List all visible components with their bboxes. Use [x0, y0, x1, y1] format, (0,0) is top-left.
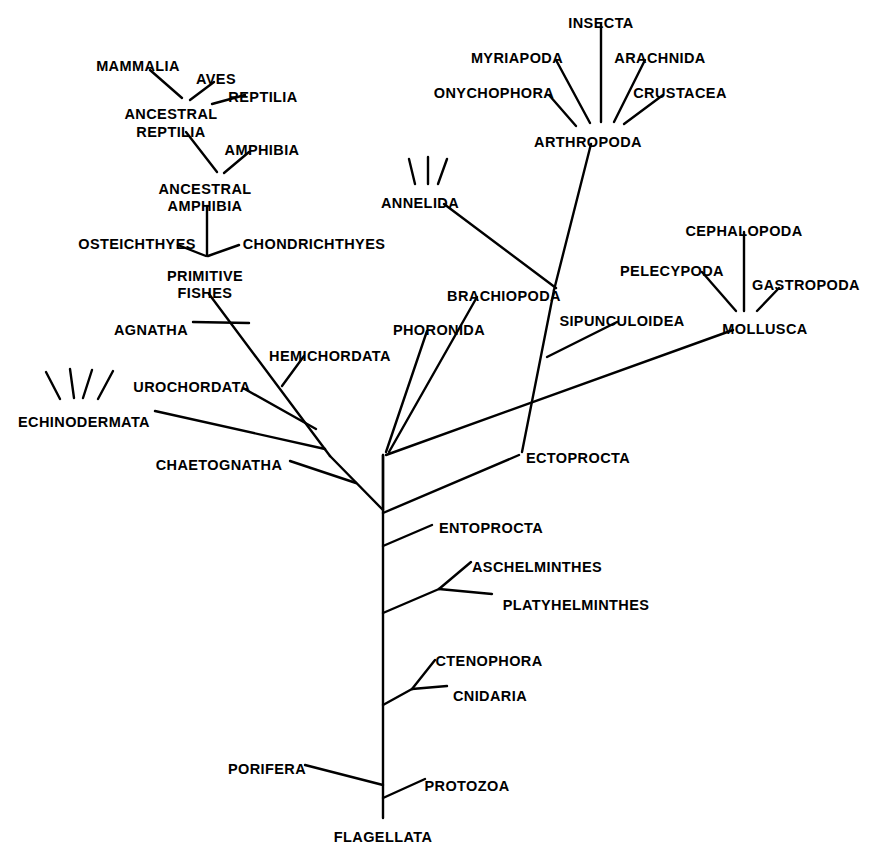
echinodermata-ticks-4 — [98, 371, 113, 399]
taxon-label-ancestral-reptilia-1: ANCESTRAL — [124, 106, 217, 122]
taxon-label-crustacea: CRUSTACEA — [633, 85, 727, 101]
branch-ectoprocta-branch — [383, 455, 519, 513]
branch-primitive-fishes-stem — [209, 294, 330, 456]
branch-agnatha-branch — [193, 322, 249, 323]
taxon-label-osteichthyes: OSTEICHTHYES — [78, 236, 196, 252]
taxon-label-aves: AVES — [196, 71, 236, 87]
branch-aschelminthes-branch — [439, 562, 471, 589]
branch-brachiopoda-branch — [389, 297, 477, 452]
taxon-label-platyhelminthes: PLATYHELMINTHES — [503, 597, 650, 613]
taxon-label-echinodermata: ECHINODERMATA — [18, 414, 150, 430]
taxon-label-mollusca: MOLLUSCA — [722, 321, 807, 337]
phylogenetic-tree-diagram: MAMMALIAAVESREPTILIAANCESTRALREPTILIAAMP… — [0, 0, 877, 847]
taxon-label-chaetognatha: CHAETOGNATHA — [156, 457, 283, 473]
branch-myriapoda-branch — [556, 60, 590, 123]
taxon-label-agnatha: AGNATHA — [114, 322, 188, 338]
echinodermata-ticks-2 — [70, 369, 74, 398]
branch-mollusca-stem — [386, 330, 733, 455]
branch-chondrichthyes-branch — [208, 245, 239, 256]
taxon-label-chondrichthyes: CHONDRICHTHYES — [243, 236, 386, 252]
echinodermata-ticks-3 — [83, 370, 92, 398]
branch-helminth-stem — [383, 589, 439, 613]
branch-phoronida-branch — [386, 331, 427, 452]
taxon-label-reptilia: REPTILIA — [228, 89, 297, 105]
taxon-label-annelida: ANNELIDA — [381, 195, 459, 211]
taxon-label-amphibia: AMPHIBIA — [225, 142, 300, 158]
branch-arthropoda-stem — [554, 144, 591, 290]
taxon-label-brachiopoda: BRACHIOPODA — [447, 288, 561, 304]
taxon-label-phoronida: PHORONIDA — [393, 322, 485, 338]
taxon-label-cephalopoda: CEPHALOPODA — [685, 223, 802, 239]
branch-cnidaria-branch — [412, 686, 447, 689]
taxon-label-ancestral-amphibia-2: AMPHIBIA — [168, 198, 243, 214]
taxon-label-arthropoda: ARTHROPODA — [534, 134, 642, 150]
taxon-label-pelecypoda: PELECYPODA — [620, 263, 724, 279]
taxon-label-gastropoda: GASTROPODA — [752, 277, 860, 293]
taxon-label-arachnida: ARACHNIDA — [614, 50, 705, 66]
taxon-label-urochordata: UROCHORDATA — [133, 379, 250, 395]
branch-ctenophora-branch — [412, 660, 435, 689]
taxon-label-insecta: INSECTA — [568, 15, 633, 31]
branch-arthropoda-lower — [522, 290, 554, 452]
branch-chordate-stem — [330, 456, 383, 510]
taxon-label-ectoprocta: ECTOPROCTA — [526, 450, 630, 466]
taxon-label-ctenophora: CTENOPHORA — [435, 653, 542, 669]
branch-cnidaria-stem — [383, 689, 412, 705]
annelida-ticks-3 — [438, 159, 447, 184]
taxon-label-primitive-fishes-2: FISHES — [178, 285, 233, 301]
taxon-label-aschelminthes: ASCHELMINTHES — [472, 559, 602, 575]
taxon-label-flagellata: FLAGELLATA — [334, 829, 433, 845]
taxon-label-mammalia: MAMMALIA — [96, 58, 180, 74]
taxon-label-primitive-fishes-1: PRIMITIVE — [167, 268, 243, 284]
branch-annelida-branch — [444, 204, 556, 288]
taxon-label-hemichordata: HEMICHORDATA — [269, 348, 391, 364]
branch-porifera-branch — [305, 765, 383, 785]
taxon-label-entoprocta: ENTOPROCTA — [439, 520, 543, 536]
taxon-label-cnidaria: CNIDARIA — [453, 688, 527, 704]
branch-protozoa-branch — [383, 779, 425, 798]
taxon-label-ancestral-reptilia-2: REPTILIA — [136, 124, 205, 140]
branch-urochordata-branch — [243, 388, 316, 429]
branch-platyhelminthes-branch — [439, 589, 492, 594]
taxon-label-myriapoda: MYRIAPODA — [471, 50, 563, 66]
echinodermata-ticks-1 — [46, 372, 60, 399]
taxon-label-sipunculoidea: SIPUNCULOIDEA — [559, 313, 684, 329]
taxon-label-protozoa: PROTOZOA — [424, 778, 509, 794]
taxon-label-onychophora: ONYCHOPHORA — [434, 85, 554, 101]
annelida-ticks-1 — [409, 159, 415, 184]
taxon-label-ancestral-amphibia-1: ANCESTRAL — [158, 181, 251, 197]
branch-entoprocta-branch — [383, 525, 432, 546]
taxon-label-porifera: PORIFERA — [228, 761, 306, 777]
